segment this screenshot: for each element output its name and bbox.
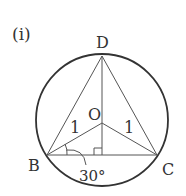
point-label-B: B [28,156,40,175]
length-label-OB: 1 [70,118,80,137]
angle-leader [66,150,86,165]
right-angle-marker [94,148,102,155]
point-label-O: O [88,105,101,124]
segment-DC [102,56,157,155]
point-label-C: C [162,160,174,179]
point-label-D: D [96,33,109,52]
figure-label: (i) [12,24,31,44]
geometry-diagram: (i) D O B C 1 1 30° [0,0,186,196]
length-label-OC: 1 [124,118,134,137]
angle-label: 30° [79,167,106,185]
